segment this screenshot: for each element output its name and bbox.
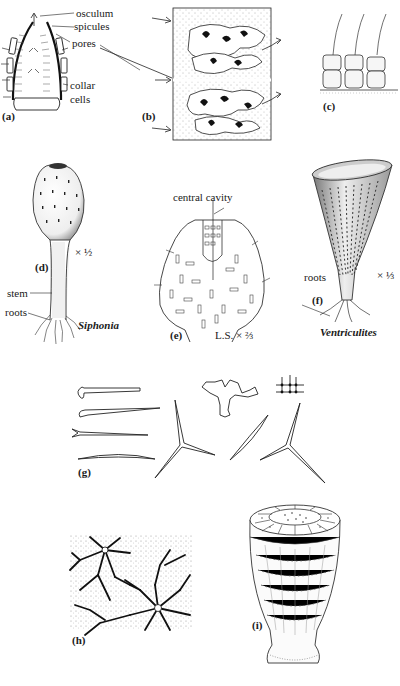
label-spicules: spicules	[74, 21, 109, 32]
label-cells: cells	[70, 94, 90, 105]
ventriculites-drawing	[280, 150, 400, 350]
spicules-drawing	[60, 375, 340, 485]
panel-d-siphonia: × ½ (d) stem roots Siphonia	[0, 150, 140, 350]
desma-network-drawing	[70, 535, 195, 640]
taxon-ventriculites: Ventriculites	[320, 327, 377, 338]
scale-f: × ⅓	[377, 270, 394, 281]
panel-label-e: (e)	[170, 330, 182, 341]
panel-label-i: (i)	[252, 620, 262, 631]
taxon-siphonia: Siphonia	[78, 320, 119, 331]
longitudinal-section-drawing	[140, 150, 285, 350]
label-roots-d: roots	[5, 307, 27, 318]
panel-label-d: (d)	[35, 262, 48, 273]
scale-d: × ½	[75, 247, 92, 258]
siphonia-drawing	[0, 150, 140, 350]
canal-system-drawing	[140, 0, 290, 150]
panel-c-collar-cells: (c)	[320, 0, 400, 150]
panel-label-g: (g)	[78, 467, 91, 478]
label-osculum: osculum	[76, 8, 113, 19]
panel-e-longitudinal-section: central cavity (e) L.S. × ⅔	[140, 150, 285, 350]
scale-e: L.S. × ⅔	[215, 330, 253, 341]
panel-f-ventriculites: roots (f) × ⅓ Ventriculites	[280, 150, 400, 350]
label-stem: stem	[7, 288, 28, 299]
panel-label-a: (a)	[2, 111, 15, 122]
sponge-section-drawing	[0, 0, 140, 150]
panel-label-b: (b)	[142, 111, 155, 122]
label-pores: pores	[72, 38, 96, 49]
panel-a-sponge-section: osculum spicules pores collar cells (a)	[0, 0, 140, 150]
panel-i-vase-sponge: (i)	[240, 495, 350, 675]
panel-label-c: (c)	[323, 101, 335, 112]
label-roots-f: roots	[304, 272, 326, 283]
panel-h-desma-network: (h)	[70, 535, 195, 640]
label-central-cavity: central cavity	[173, 192, 233, 203]
vase-sponge-drawing	[240, 495, 350, 675]
panel-label-f: (f)	[312, 295, 323, 306]
collar-cells-drawing	[320, 0, 400, 150]
panel-label-h: (h)	[72, 635, 85, 646]
panel-b-canal-system: (b)	[140, 0, 290, 150]
label-collar: collar	[70, 80, 95, 91]
panel-g-spicules: (g)	[60, 375, 340, 485]
